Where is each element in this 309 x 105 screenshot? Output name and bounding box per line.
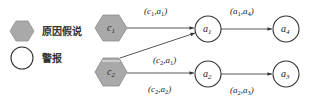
node-c1: c1 — [95, 15, 127, 41]
node-a4: a4 — [273, 16, 299, 42]
legend-hexagon-icon — [10, 21, 34, 41]
node-a1: a1 — [195, 16, 221, 42]
legend-circle-icon — [11, 47, 33, 69]
legend-hypothesis-label: 原因假说 — [42, 25, 82, 37]
node-a3: a3 — [273, 61, 299, 87]
edge-label-a2-a3: (a2,a3) — [230, 85, 254, 96]
node-a2: a2 — [195, 61, 221, 87]
edge-label-c1-a1: (c1,a1) — [144, 6, 167, 17]
edge-label-a1-a4: (a1,a4) — [230, 6, 254, 17]
legend-alarm-label: 警报 — [41, 52, 62, 64]
causal-alarm-diagram: 原因假说 警报 (c1,a1) (c2,a1) (c2,a2) (a1,a4) … — [0, 0, 309, 105]
node-c2: c2 — [95, 58, 127, 86]
edge-label-c2-a1: (c2,a1) — [153, 55, 176, 66]
edge-label-c2-a2: (c2,a2) — [148, 84, 171, 95]
legend: 原因假说 警报 — [10, 21, 82, 69]
